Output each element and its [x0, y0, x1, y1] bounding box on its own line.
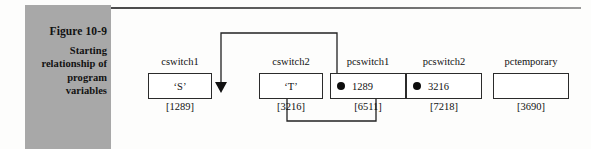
node-cswitch2-box: ‘T’ — [259, 73, 323, 99]
node-pctemporary-address: [3690] — [493, 101, 569, 112]
node-pctemporary-box — [493, 73, 569, 99]
node-pcswitch2-address: [7218] — [406, 101, 482, 112]
node-pcswitch2-box: 3216 — [406, 73, 482, 99]
pointer-diagram: cswitch1 ‘S’ [1289] cswitch2 ‘T’ [3216] … — [111, 0, 591, 149]
node-pctemporary-label: pctemporary — [493, 56, 569, 67]
node-pcswitch1-label: pcswitch1 — [330, 56, 406, 67]
node-cswitch1-label: cswitch1 — [148, 56, 212, 67]
node-pcswitch2-label: pcswitch2 — [406, 56, 482, 67]
node-cswitch2-label: cswitch2 — [259, 56, 323, 67]
node-cswitch2-value: ‘T’ — [260, 74, 322, 98]
figure-caption-line-4: variables — [25, 84, 107, 98]
node-cswitch2-address: [3216] — [259, 101, 323, 112]
figure-page: Figure 10-9 Starting relationship of pro… — [0, 0, 591, 149]
node-pcswitch1-value: 1289 — [331, 74, 405, 98]
figure-number: Figure 10-9 — [25, 25, 107, 39]
node-pcswitch1-address: [6511] — [330, 101, 406, 112]
node-cswitch1-box: ‘S’ — [148, 73, 212, 99]
figure-caption-line-2: relationship of — [25, 57, 107, 71]
node-pcswitch1-box: 1289 — [330, 73, 406, 99]
arrowhead-into-cswitch1 — [215, 82, 227, 93]
node-pctemporary-value — [494, 74, 568, 98]
figure-caption-line-3: program — [25, 71, 107, 85]
figure-caption-text: Figure 10-9 Starting relationship of pro… — [25, 25, 107, 98]
node-pcswitch2-value: 3216 — [407, 74, 481, 98]
figure-caption-panel: Figure 10-9 Starting relationship of pro… — [25, 5, 111, 149]
node-cswitch1-address: [1289] — [148, 101, 212, 112]
node-cswitch1-value: ‘S’ — [149, 74, 211, 98]
figure-caption-line-1: Starting — [25, 44, 107, 58]
